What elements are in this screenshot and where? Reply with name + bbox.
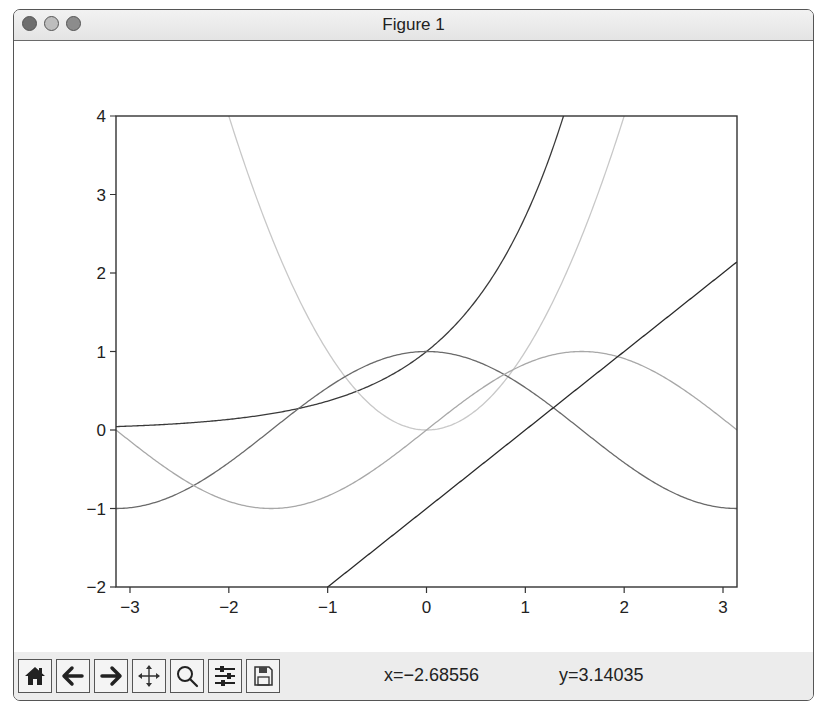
save-button[interactable] [246,659,280,693]
home-icon [23,664,47,688]
arrow-left-icon [60,663,86,689]
x-tick-label: 1 [521,598,530,617]
y-tick-label: 1 [97,343,106,362]
cursor-y-readout: y=3.14035 [559,665,644,686]
y-tick-label: 3 [97,186,106,205]
arrow-right-icon [98,663,124,689]
floppy-disk-icon [251,664,275,688]
figure-window: Figure 1 −3−2−10123−2−101234 [13,9,814,701]
forward-button[interactable] [94,659,128,693]
y-tick-label: 2 [97,264,106,283]
y-tick-label: 0 [97,421,106,440]
y-tick-label: −1 [87,500,106,519]
x-tick-label: 2 [619,598,628,617]
move-icon [136,663,162,689]
series-line [116,41,737,430]
window-title: Figure 1 [14,15,813,35]
x-tick-label: −1 [318,598,337,617]
cursor-x-readout: x=−2.68556 [384,665,479,686]
zoom-button[interactable] [170,659,204,693]
series-line [116,352,737,509]
configure-subplots-button[interactable] [208,659,242,693]
y-tick-label: 4 [97,107,106,126]
x-tick-label: 0 [422,598,431,617]
home-button[interactable] [18,659,52,693]
title-bar[interactable]: Figure 1 [14,10,813,41]
x-tick-label: 3 [718,598,727,617]
x-tick-label: −2 [219,598,238,617]
pan-button[interactable] [132,659,166,693]
y-tick-label: −2 [87,578,106,597]
x-tick-label: −3 [120,598,139,617]
sliders-icon [212,663,238,689]
series-line [116,41,737,427]
plot-canvas[interactable]: −3−2−10123−2−101234 [14,41,814,651]
magnifier-icon [174,663,200,689]
line-chart[interactable]: −3−2−10123−2−101234 [14,41,814,651]
navigation-toolbar: x=−2.68556 y=3.14035 [14,652,813,700]
back-button[interactable] [56,659,90,693]
